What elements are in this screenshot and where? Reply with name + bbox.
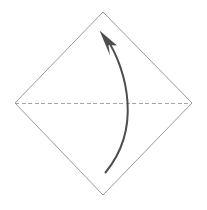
origami-fold-diagram: Origami valley fold step Square sheet or…: [0, 0, 207, 210]
diagram-background: [0, 0, 207, 210]
fold-diagram-canvas: Origami valley fold step Square sheet or…: [0, 0, 207, 210]
